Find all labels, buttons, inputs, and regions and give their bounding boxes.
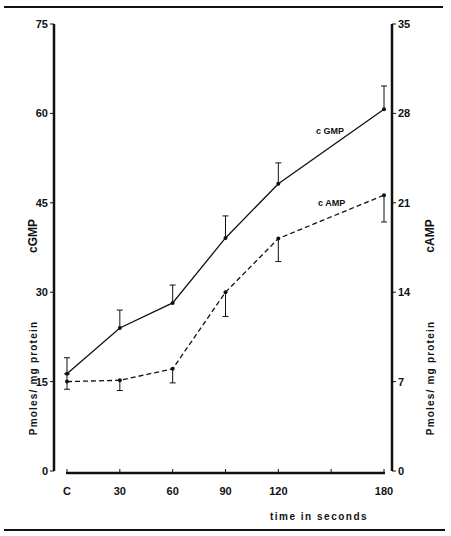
data-point [382, 107, 386, 111]
data-point [118, 378, 122, 382]
data-point [171, 301, 175, 305]
x-axis-tick-label: 90 [219, 485, 231, 497]
left-axis-tick-label: 75 [36, 18, 48, 30]
right-axis-tick-label: 35 [398, 18, 410, 30]
data-point [224, 290, 228, 294]
right-axis-title: cAMP [423, 219, 437, 252]
left-axis-tick-label: 45 [36, 197, 48, 209]
chart-canvas: 01530456075 0714212835 C306090120180 cGM… [0, 0, 451, 536]
data-point [118, 326, 122, 330]
x-axis-tick-label: 180 [375, 485, 393, 497]
data-point [276, 182, 280, 186]
left-axis-title: cGMP [26, 219, 40, 253]
right-axis-units: Pmoles/ mg protein [425, 321, 436, 435]
left-axis-units: Pmoles/ mg protein [28, 321, 39, 435]
data-point [171, 367, 175, 371]
right-axis-tick-label: 21 [398, 197, 410, 209]
x-axis-tick-label: 120 [269, 485, 287, 497]
left-axis-tick-label: 60 [36, 107, 48, 119]
right-axis-tick-label: 28 [398, 107, 410, 119]
data-point [276, 237, 280, 241]
x-axis-tick-label: 60 [167, 485, 179, 497]
series-label-cgmp: c GMP [316, 126, 344, 136]
x-axis: C306090120180 [63, 469, 393, 497]
x-axis-title: time in seconds [270, 511, 368, 522]
series-line [67, 109, 384, 374]
data-point [65, 380, 69, 384]
right-y-axis: 0714212835 [392, 18, 411, 477]
x-axis-tick-label: C [63, 485, 71, 497]
right-axis-tick-label: 14 [398, 286, 411, 298]
left-axis-tick-label: 0 [42, 465, 48, 477]
data-point [224, 236, 228, 240]
left-axis-tick-label: 30 [36, 286, 48, 298]
right-axis-tick-label: 7 [398, 376, 404, 388]
data-point [382, 193, 386, 197]
series-label-camp: c AMP [318, 198, 345, 208]
right-axis-tick-label: 0 [398, 465, 404, 477]
x-axis-tick-label: 30 [114, 485, 126, 497]
